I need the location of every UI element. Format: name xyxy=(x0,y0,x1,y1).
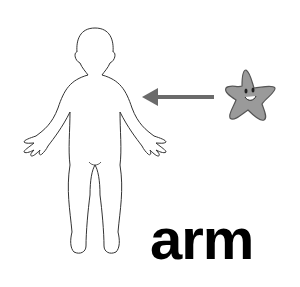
arrow-left-icon xyxy=(142,88,214,106)
child-body-outline xyxy=(24,28,166,253)
smiling-star-icon xyxy=(226,70,275,120)
vocabulary-word: arm xyxy=(150,210,253,268)
